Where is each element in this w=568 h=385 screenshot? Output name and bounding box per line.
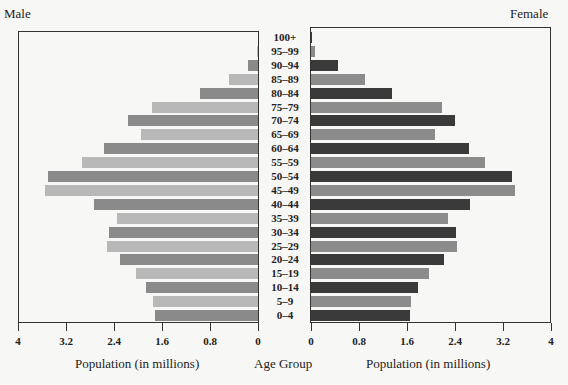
- female-bar: [311, 185, 515, 196]
- x-tick: [114, 323, 115, 331]
- x-tick: [66, 323, 67, 331]
- age-group-label: 100+: [260, 31, 310, 44]
- x-tick-label: 4: [0, 335, 38, 347]
- x-tick: [162, 323, 163, 331]
- female-bar: [311, 60, 338, 71]
- male-bar: [117, 213, 258, 224]
- female-bar: [311, 46, 315, 57]
- x-tick-label: 0: [238, 335, 278, 347]
- male-bar: [229, 74, 258, 85]
- age-group-label: 55–59: [260, 156, 310, 169]
- female-bar: [311, 199, 470, 210]
- male-bar: [94, 199, 258, 210]
- age-group-label: 30–34: [260, 226, 310, 239]
- age-group-label: 65–69: [260, 128, 310, 141]
- male-bar: [153, 296, 258, 307]
- female-bar: [311, 254, 444, 265]
- age-group-label: 25–29: [260, 240, 310, 253]
- x-tick: [18, 323, 19, 331]
- x-tick: [551, 323, 552, 331]
- age-group-label: 70–74: [260, 114, 310, 127]
- male-bar: [48, 171, 258, 182]
- female-bar: [311, 241, 457, 252]
- female-bar: [311, 282, 418, 293]
- female-bar: [311, 102, 442, 113]
- x-tick: [407, 323, 408, 331]
- age-group-label: 45–49: [260, 184, 310, 197]
- age-group-label: 75–79: [260, 101, 310, 114]
- age-group-label: 35–39: [260, 212, 310, 225]
- female-bar: [311, 129, 435, 140]
- male-label: Male: [4, 6, 31, 22]
- x-tick: [210, 323, 211, 331]
- x-axis-title-right: Population (in millions): [366, 356, 490, 372]
- female-label: Female: [510, 6, 548, 22]
- age-group-label: 85–89: [260, 73, 310, 86]
- age-group-label: 0–4: [260, 309, 310, 322]
- age-group-label: 10–14: [260, 281, 310, 294]
- age-group-title: Age Group: [254, 356, 312, 372]
- male-bar: [141, 129, 258, 140]
- x-tick-label: 0.8: [190, 335, 230, 347]
- age-group-label: 90–94: [260, 59, 310, 72]
- male-bar: [248, 60, 258, 71]
- female-bar: [311, 74, 365, 85]
- male-bar: [257, 46, 258, 57]
- x-tick-label: 3.2: [46, 335, 86, 347]
- female-bar: [311, 88, 392, 99]
- x-tick: [258, 323, 259, 331]
- x-tick-label: 2.4: [435, 335, 475, 347]
- age-group-label: 15–19: [260, 267, 310, 280]
- male-bar: [120, 254, 258, 265]
- female-bar: [311, 227, 456, 238]
- male-bar: [152, 102, 258, 113]
- age-group-label: 40–44: [260, 198, 310, 211]
- age-group-label: 20–24: [260, 253, 310, 266]
- male-bar: [45, 185, 258, 196]
- female-bar: [311, 213, 448, 224]
- male-bar: [104, 143, 258, 154]
- male-bar: [155, 310, 258, 321]
- female-bar: [311, 157, 485, 168]
- x-tick-label: 1.6: [387, 335, 427, 347]
- x-tick: [311, 323, 312, 331]
- x-tick-label: 0.8: [339, 335, 379, 347]
- age-group-label: 50–54: [260, 170, 310, 183]
- male-bar: [136, 268, 258, 279]
- female-bar: [311, 171, 512, 182]
- female-bar: [311, 115, 455, 126]
- x-tick: [359, 323, 360, 331]
- male-bar: [128, 115, 258, 126]
- age-group-label: 5–9: [260, 295, 310, 308]
- x-tick-label: 1.6: [142, 335, 182, 347]
- x-tick-label: 0: [291, 335, 331, 347]
- x-tick-label: 3.2: [483, 335, 523, 347]
- female-bar: [311, 310, 410, 321]
- male-bar: [82, 157, 258, 168]
- male-bar: [107, 241, 258, 252]
- male-bar: [200, 88, 258, 99]
- x-tick: [455, 323, 456, 331]
- x-tick-label: 2.4: [94, 335, 134, 347]
- female-bar: [311, 143, 469, 154]
- female-bar: [311, 296, 411, 307]
- x-tick: [503, 323, 504, 331]
- age-group-label: 95–99: [260, 45, 310, 58]
- male-bar: [109, 227, 258, 238]
- age-group-label: 60–64: [260, 142, 310, 155]
- x-tick-label: 4: [531, 335, 568, 347]
- male-bar: [146, 282, 258, 293]
- female-bar: [311, 268, 429, 279]
- female-bar: [311, 32, 312, 43]
- x-axis-title-left: Population (in millions): [75, 356, 199, 372]
- age-group-label: 80–84: [260, 87, 310, 100]
